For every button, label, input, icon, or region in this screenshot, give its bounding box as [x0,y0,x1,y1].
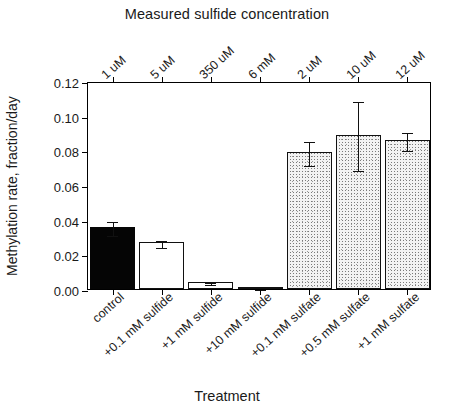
top-axis-tick-label-text: 10 uM [344,48,379,82]
y-axis-tick-label: 0.10 [54,110,79,125]
methylation-rate-bar-chart: Measured sulfide concentration 1 uM5 uM3… [0,0,454,417]
error-bar [407,133,408,150]
y-axis-title: Methylation rate, fraction/day [4,96,20,276]
top-axis-tick-label-text: 12 uM [393,48,428,82]
x-axis-title: Treatment [0,388,454,404]
plot-area: 0.120.100.080.060.040.020.00 [87,82,431,290]
error-bar-cap [205,285,216,286]
y-axis-tick-label: 0.04 [54,214,79,229]
error-bar-cap [156,248,167,249]
error-bar-cap [402,151,413,152]
error-bar-cap [156,241,167,242]
top-axis-tick [113,77,114,83]
bar [287,152,332,289]
bar [385,140,430,289]
y-axis-tick-label: 0.12 [54,76,79,91]
error-bar-cap [107,222,118,223]
error-bar [358,102,359,171]
bar [139,242,184,289]
top-axis-tick [162,77,163,83]
x-axis-category-label-text: control [90,290,127,326]
bars-layer [88,83,430,289]
top-axis-tick [211,77,212,83]
error-bar [162,241,163,248]
error-bar-cap [304,142,315,143]
error-bar-cap [304,166,315,167]
error-bar-cap [353,102,364,103]
top-axis-tick-labels: 1 uM5 uM350 uM6 mM2 uM10 uM12 uM [87,36,431,82]
error-bar [113,222,114,236]
error-bar-cap [402,133,413,134]
error-bar-cap [107,236,118,237]
error-bar-cap [205,283,216,284]
y-axis-tick-label: 0.08 [54,145,79,160]
y-axis-tick-label: 0.00 [54,284,79,299]
top-axis-title: Measured sulfide concentration [0,6,454,22]
y-axis-tick-label: 0.02 [54,249,79,264]
top-axis-tick [260,77,261,83]
top-axis-tick [407,77,408,83]
top-axis-tick [309,77,310,83]
x-axis-category-labels: control+0.1 mM sulfide+1 mM sulfide+10 m… [87,290,431,376]
error-bar [309,142,310,166]
top-axis-tick-label-text: 350 uM [196,44,236,82]
top-axis-tick-label-text: 6 mM [246,51,279,82]
y-axis-tick-label: 0.06 [54,180,79,195]
top-axis-tick [358,77,359,83]
error-bar-cap [353,171,364,172]
